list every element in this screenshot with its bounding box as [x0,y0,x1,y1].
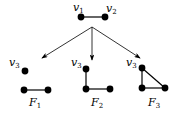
root-graph: v1 v2 [73,1,117,20]
graph-tree-diagram: v1 v2 v3 F1 v3 F2 v3 F3 [0,0,180,114]
svg-text:v3: v3 [9,56,20,70]
svg-text:F2: F2 [90,96,103,110]
graph-f3: v3 F3 [126,56,168,110]
svg-text:F1: F1 [28,96,41,110]
svg-text:v1: v1 [73,1,84,15]
svg-text:v3: v3 [126,56,137,70]
graph-f1: v3 F1 [9,56,51,110]
graph-f2: v3 F2 [71,56,113,110]
svg-text:F3: F3 [147,96,160,110]
svg-text:v2: v2 [106,2,117,16]
svg-text:v3: v3 [71,56,82,70]
